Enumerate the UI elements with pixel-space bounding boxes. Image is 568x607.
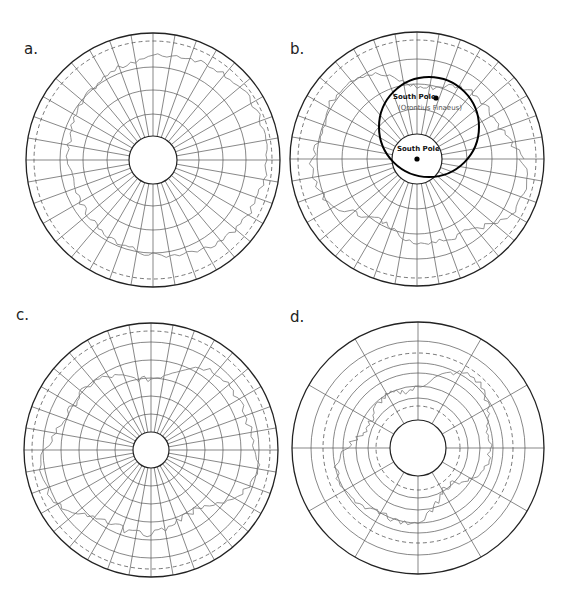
map-panel-b: South Pole(Orontius Finaeus)South Pole bbox=[290, 32, 544, 286]
map-panel-c bbox=[24, 323, 278, 577]
map-annotation: (Orontius Finaeus) bbox=[398, 104, 462, 112]
pole-point-marker bbox=[414, 156, 419, 161]
polar-projection-figure: South Pole(Orontius Finaeus)South Pole bbox=[0, 0, 568, 607]
map-annotation: South Pole bbox=[393, 93, 436, 101]
map-annotation: South Pole bbox=[397, 145, 440, 153]
map-panel-a bbox=[26, 33, 280, 287]
map-panel-d bbox=[292, 322, 544, 574]
